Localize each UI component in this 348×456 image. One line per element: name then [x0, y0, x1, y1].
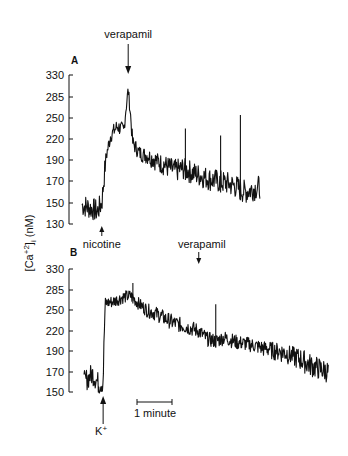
panel-b: B150170190220250285330K+verapamil	[46, 238, 329, 437]
svg-text:nicotine: nicotine	[83, 238, 121, 250]
y-axis-label: [Ca+2]i (nM)	[22, 215, 38, 272]
scale-bar: 1 minute	[134, 399, 176, 419]
svg-text:verapamil: verapamil	[104, 28, 152, 40]
y-tick-label: 285	[46, 91, 64, 103]
y-tick-label: 285	[46, 284, 64, 296]
panel-a: A130150170190220250285330nicotineverapam…	[46, 28, 260, 250]
y-tick-label: 150	[46, 197, 64, 209]
y-tick-label: 250	[46, 304, 64, 316]
panel-label: A	[71, 55, 78, 66]
y-tick-label: 220	[46, 133, 64, 145]
y-tick-label: 130	[46, 218, 64, 230]
annotation-k: K+	[95, 396, 107, 437]
svg-text:K+: K+	[95, 424, 107, 437]
svg-text:verapamil: verapamil	[178, 238, 226, 250]
y-tick-label: 330	[46, 263, 64, 275]
y-tick-label: 190	[46, 154, 64, 166]
calcium-trace	[84, 291, 328, 393]
annotation-verapamil: verapamil	[178, 238, 226, 264]
scale-bar-label: 1 minute	[134, 407, 176, 419]
y-tick-label: 330	[46, 69, 64, 81]
y-tick-label: 250	[46, 112, 64, 124]
y-tick-label: 170	[46, 366, 64, 378]
calcium-trace	[82, 89, 260, 220]
figure-canvas: [Ca+2]i (nM) A130150170190220250285330ni…	[0, 0, 348, 456]
y-tick-label: 150	[46, 386, 64, 398]
panel-label: B	[70, 247, 77, 258]
annotation-verapamil: verapamil	[104, 28, 152, 74]
y-tick-label: 220	[46, 325, 64, 337]
y-tick-label: 170	[46, 175, 64, 187]
annotation-nicotine: nicotine	[83, 226, 121, 250]
y-tick-label: 190	[46, 345, 64, 357]
